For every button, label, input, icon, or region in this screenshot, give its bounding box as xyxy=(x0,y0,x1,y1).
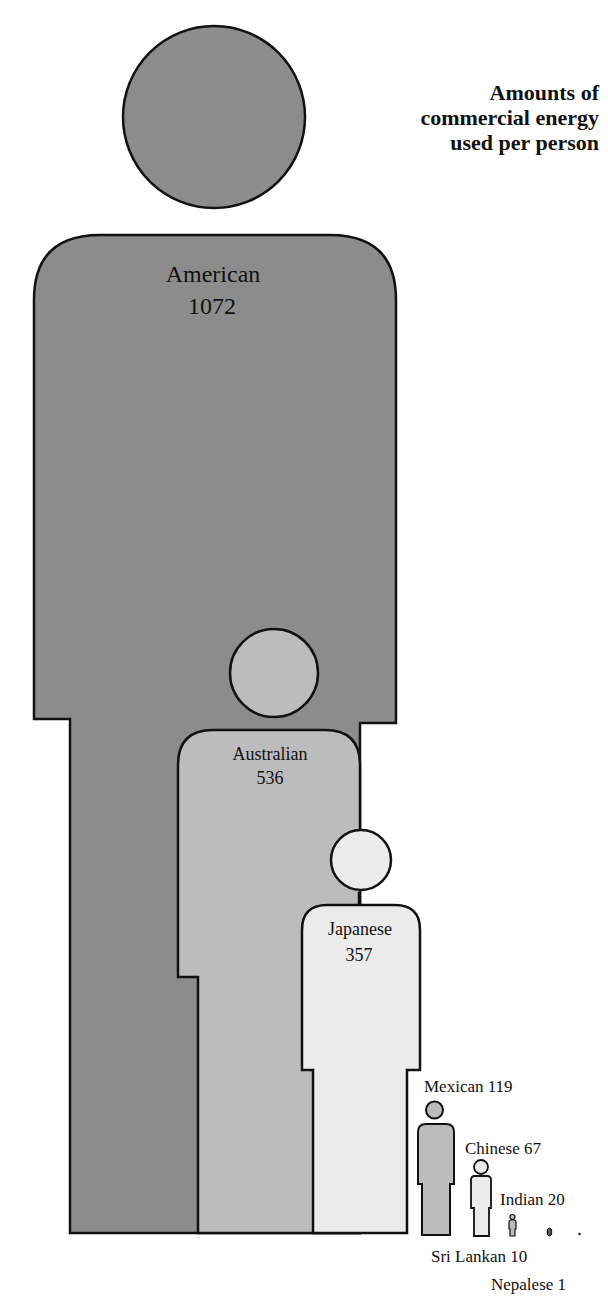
nepalese-body-icon xyxy=(578,1233,581,1236)
chinese-head-icon xyxy=(474,1160,488,1174)
mexican-body-icon xyxy=(418,1124,454,1235)
sri-lankan-body-icon xyxy=(547,1228,552,1236)
chinese-label: Chinese 67 xyxy=(465,1139,542,1158)
japanese-head-icon xyxy=(331,830,391,890)
figure-indian: Indian 20 xyxy=(500,1190,565,1236)
indian-body-icon xyxy=(509,1220,516,1236)
japanese-value: 357 xyxy=(346,945,373,965)
indian-label: Indian 20 xyxy=(500,1190,565,1209)
american-value: 1072 xyxy=(188,293,236,319)
american-label: American xyxy=(166,261,261,287)
chinese-body-icon xyxy=(471,1176,491,1236)
figure-chinese: Chinese 67 xyxy=(465,1139,542,1236)
nepalese-label: Nepalese 1 xyxy=(491,1275,566,1294)
sri-lankan-label: Sri Lankan 10 xyxy=(431,1247,527,1266)
japanese-label: Japanese xyxy=(328,919,392,939)
pictogram-chart: American 1072 Australian 536 Japanese 35… xyxy=(0,0,608,1316)
mexican-label: Mexican 119 xyxy=(424,1077,513,1096)
australian-label: Australian xyxy=(233,744,308,764)
mexican-head-icon xyxy=(426,1102,443,1119)
australian-value: 536 xyxy=(257,768,284,788)
indian-head-icon xyxy=(510,1215,515,1220)
american-head-icon xyxy=(123,26,305,208)
australian-head-icon xyxy=(230,629,318,717)
